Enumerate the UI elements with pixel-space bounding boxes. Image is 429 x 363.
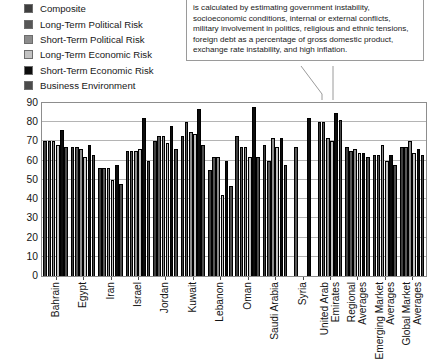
- x-axis-label-line: Averages: [385, 282, 396, 360]
- x-axis-cell: Saudi Arabia: [261, 277, 288, 363]
- bar-group: [179, 103, 206, 276]
- x-axis-tick: [303, 277, 304, 280]
- bar: [185, 122, 189, 276]
- bar: [126, 151, 130, 276]
- legend-item-label: Long-Term Economic Risk: [40, 49, 152, 60]
- bar: [130, 151, 134, 276]
- y-axis-tick-label: 0: [4, 271, 38, 281]
- bar: [71, 147, 75, 276]
- bar: [307, 118, 311, 276]
- bar-group: [316, 103, 343, 276]
- chart-legend: CompositeLong-Term Political RiskShort-T…: [24, 1, 204, 93]
- bar: [52, 141, 56, 276]
- bar: [326, 138, 330, 276]
- bar: [393, 165, 397, 276]
- legend-item-label: Short-Term Economic Risk: [40, 65, 154, 76]
- annotation-callout-text: is calculated by estimating government i…: [193, 3, 417, 56]
- bar: [408, 141, 412, 276]
- bar-group: [207, 103, 234, 276]
- bar: [421, 155, 425, 276]
- bar: [385, 161, 389, 276]
- x-axis-cell: Jordan: [152, 277, 179, 363]
- bar: [404, 147, 408, 276]
- bar: [48, 141, 52, 276]
- y-axis-tick-label: 30: [4, 213, 38, 223]
- x-axis-cell: RegionalAverages: [344, 277, 371, 363]
- x-axis: BahrainEgyptIranIsraelJordanKuwaitLebano…: [42, 277, 426, 363]
- y-axis-tick-label: 80: [4, 117, 38, 127]
- legend-swatch-icon: [24, 66, 33, 75]
- x-axis-tick: [275, 277, 276, 280]
- bar: [280, 138, 284, 276]
- bar-group: [152, 103, 179, 276]
- x-axis-label: Oman: [242, 282, 253, 310]
- bar: [147, 161, 151, 276]
- bar: [88, 145, 92, 276]
- callout-tail-icon: [300, 66, 334, 100]
- bar: [334, 113, 338, 276]
- bar-groups: [42, 103, 426, 276]
- bar: [318, 122, 322, 276]
- legend-item-label: Composite: [40, 3, 86, 14]
- legend-item-label: Long-Term Political Risk: [40, 19, 143, 30]
- bar: [267, 161, 271, 276]
- legend-item-label: Short-Term Political Risk: [40, 34, 145, 45]
- bar-group: [234, 103, 261, 276]
- x-axis-label-line: Kuwait: [187, 282, 198, 313]
- x-axis-tick: [165, 277, 166, 280]
- bar-group: [42, 103, 69, 276]
- x-axis-label-line: United Arab: [319, 282, 330, 335]
- bar: [240, 147, 244, 276]
- bar: [170, 126, 174, 276]
- legend-item: Short-Term Economic Risk: [24, 63, 204, 78]
- bar-group: [124, 103, 151, 276]
- x-axis-tick: [111, 277, 112, 280]
- x-axis-label: Saudi Arabia: [269, 282, 280, 340]
- x-axis-tick: [56, 277, 57, 280]
- x-axis-tick: [138, 277, 139, 280]
- legend-item: Composite: [24, 1, 204, 16]
- x-axis-cell: Oman: [234, 277, 261, 363]
- x-axis-cell: Israel: [124, 277, 151, 363]
- y-axis: 0102030405060708090: [0, 98, 38, 278]
- bar: [362, 153, 366, 276]
- bar: [221, 195, 225, 276]
- x-axis-label-line: Averages: [357, 282, 368, 325]
- bar: [275, 147, 279, 276]
- bar: [400, 147, 404, 276]
- bar: [330, 141, 334, 276]
- bar: [263, 145, 267, 276]
- x-axis-cell: United ArabEmirates: [316, 277, 343, 363]
- bar-chart: 0102030405060708090 BahrainEgyptIranIsra…: [0, 98, 429, 363]
- x-axis-label: Iran: [105, 282, 116, 300]
- bar-group: [289, 103, 316, 276]
- bar: [64, 147, 68, 276]
- x-axis-label-line: Jordan: [160, 282, 171, 313]
- bar: [111, 180, 115, 276]
- y-axis-tick-label: 40: [4, 194, 38, 204]
- bar: [349, 151, 353, 276]
- bar: [353, 149, 357, 276]
- bar: [417, 149, 421, 276]
- bar: [212, 157, 216, 276]
- y-axis-tick-label: 50: [4, 175, 38, 185]
- bar: [92, 155, 96, 276]
- bar: [256, 157, 260, 276]
- x-axis-label-line: Emerging Market: [373, 282, 384, 360]
- bar: [142, 118, 146, 276]
- bar: [174, 149, 178, 276]
- legend-item: Long-Term Political Risk: [24, 16, 204, 31]
- x-axis-cell: Global MarketAverages: [398, 277, 425, 363]
- bar: [102, 168, 106, 276]
- bar: [225, 161, 229, 276]
- x-axis-label: Lebanon: [215, 282, 226, 322]
- x-axis-label: Israel: [132, 282, 143, 307]
- legend-item: Long-Term Economic Risk: [24, 47, 204, 62]
- bar: [75, 147, 79, 276]
- x-axis-tick: [248, 277, 249, 280]
- bar-group: [344, 103, 371, 276]
- x-axis-label: Jordan: [160, 282, 171, 313]
- x-axis-tick: [385, 277, 386, 280]
- bar: [43, 141, 47, 276]
- x-axis-cell: Emerging MarketAverages: [371, 277, 398, 363]
